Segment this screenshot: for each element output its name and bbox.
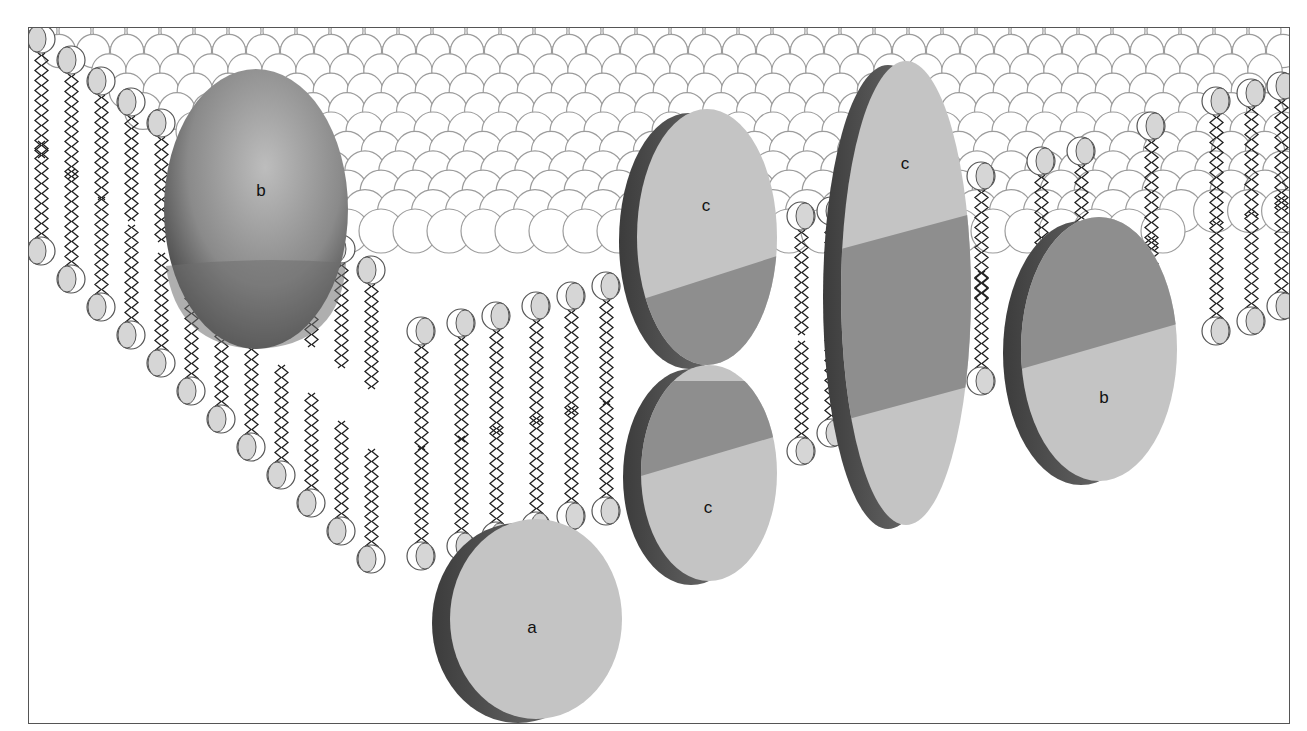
- protein-label-c-bottom: c: [704, 498, 713, 518]
- membrane-illustration: [29, 28, 1290, 724]
- diagram-frame: [28, 27, 1290, 724]
- protein-label-b-right: b: [1099, 388, 1108, 408]
- protein-label-a: a: [527, 618, 536, 638]
- protein-label-c-top: c: [702, 196, 711, 216]
- protein-label-c-tall: c: [901, 154, 910, 174]
- protein-label-b-left: b: [256, 181, 265, 201]
